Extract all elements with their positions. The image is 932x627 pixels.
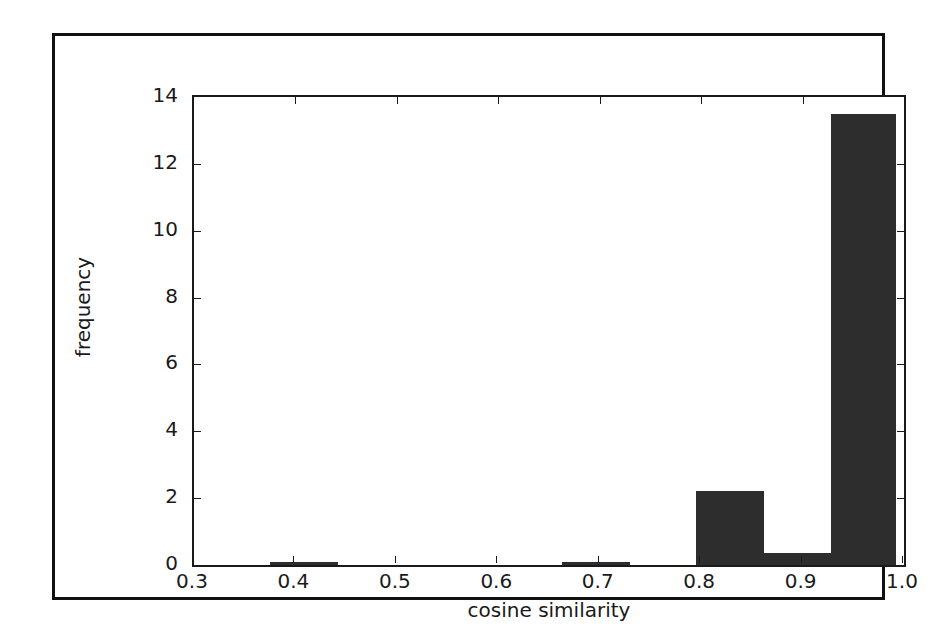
x-axis-tick-label: 1.0 (886, 571, 918, 591)
y-axis-tick-labels: 02468101214 (150, 95, 186, 567)
x-axis-tick-label: 0.3 (176, 571, 208, 591)
y-axis-tick-label: 14 (153, 85, 178, 105)
y-axis-tick-mark (194, 431, 201, 432)
x-axis-tick-label: 0.5 (379, 571, 411, 591)
histogram-bar (562, 562, 630, 565)
histogram-bars (194, 97, 904, 565)
y-axis-label: frequency (71, 157, 95, 457)
x-axis-tick-mark-top (295, 97, 296, 104)
x-axis-tick-mark (902, 556, 903, 563)
y-axis-tick-label: 12 (153, 152, 178, 172)
x-axis-tick-mark-top (397, 97, 398, 104)
y-axis-tick-label: 4 (165, 419, 178, 439)
x-axis-label: cosine similarity (192, 598, 906, 622)
x-axis-tick-mark (293, 556, 294, 563)
y-axis-tick-label: 2 (165, 486, 178, 506)
x-axis-tick-mark (192, 556, 193, 563)
x-axis-tick-mark (699, 556, 700, 563)
histogram-bar (696, 491, 764, 565)
x-axis-tick-label: 0.6 (480, 571, 512, 591)
y-axis-tick-mark-right (897, 298, 904, 299)
histogram-bar (764, 553, 831, 565)
y-axis-tick-mark (194, 364, 201, 365)
histogram-screenshot: frequency 02468101214 0.30.40.50.60.70.8… (0, 0, 932, 627)
histogram-bar (270, 562, 338, 565)
y-axis-tick-label: 6 (165, 352, 178, 372)
y-axis-tick-mark-right (897, 431, 904, 432)
y-axis-tick-mark-right (897, 498, 904, 499)
x-axis-tick-mark-top (600, 97, 601, 104)
histogram-bar (831, 114, 896, 565)
x-axis-tick-label: 0.9 (785, 571, 817, 591)
x-axis-tick-mark (598, 556, 599, 563)
x-axis-tick-mark (395, 556, 396, 563)
x-axis-tick-label: 0.7 (582, 571, 614, 591)
y-axis-tick-mark (194, 498, 201, 499)
x-axis-tick-mark-top (803, 97, 804, 104)
x-axis-tick-label: 0.8 (683, 571, 715, 591)
x-axis-tick-mark-top (498, 97, 499, 104)
y-axis-tick-mark (194, 231, 201, 232)
y-axis-tick-mark-right (897, 364, 904, 365)
y-axis-tick-label: 10 (153, 219, 178, 239)
figure-frame: frequency 02468101214 0.30.40.50.60.70.8… (52, 33, 885, 600)
y-axis-tick-mark-right (897, 164, 904, 165)
x-axis-tick-mark (496, 556, 497, 563)
y-axis-tick-mark (194, 298, 201, 299)
plot-area (192, 95, 906, 567)
x-axis-tick-mark-top (701, 97, 702, 104)
x-axis-tick-label: 0.4 (278, 571, 310, 591)
x-axis-tick-mark (801, 556, 802, 563)
y-axis-tick-label: 8 (165, 286, 178, 306)
y-axis-tick-mark-right (897, 231, 904, 232)
y-axis-tick-mark (194, 164, 201, 165)
